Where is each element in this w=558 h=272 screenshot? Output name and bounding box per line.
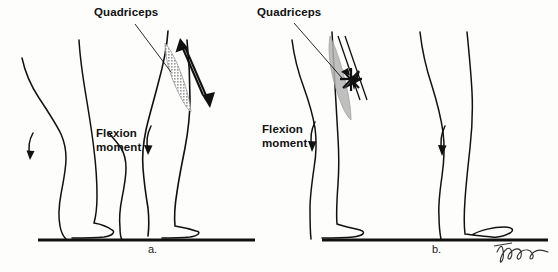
quadriceps-cross-out-mark-b	[340, 68, 362, 91]
front-leg-calf-a	[162, 40, 199, 238]
flexion-moment-line2-a: moment	[96, 140, 141, 154]
flexion-arrowhead-rear-a	[27, 151, 35, 161]
quadriceps-label-panel-a: Quadriceps	[94, 6, 158, 19]
quadriceps-arrow-down-a	[185, 47, 208, 100]
quadriceps-inhibit-line-2-b	[345, 36, 367, 100]
quadriceps-label-panel-b: Quadriceps	[257, 6, 321, 19]
flexion-moment-line2-b: moment	[262, 136, 307, 150]
quadriceps-arrowhead-down-a	[202, 92, 215, 108]
front-leg-anterior-a	[143, 31, 168, 236]
panel-a-caption: a.	[148, 243, 157, 255]
flexion-moment-label-panel-a: Flexion moment	[96, 126, 141, 154]
panel-b-illustration	[292, 23, 548, 240]
figure-root: Quadriceps Quadriceps Flexion moment Fle…	[0, 0, 558, 272]
flexion-arrowhead-rear-b	[438, 145, 447, 156]
artist-signature	[494, 243, 548, 262]
rear-leg-posterior-b	[464, 32, 512, 237]
flexion-arrowhead-front-a	[144, 145, 153, 155]
panel-b-caption: b.	[432, 243, 441, 255]
flexion-moment-line1-b: Flexion	[262, 122, 307, 136]
flexion-moment-line1-a: Flexion	[96, 126, 141, 140]
flexion-moment-label-panel-b: Flexion moment	[262, 122, 307, 150]
rear-leg-anterior-b	[420, 32, 444, 239]
